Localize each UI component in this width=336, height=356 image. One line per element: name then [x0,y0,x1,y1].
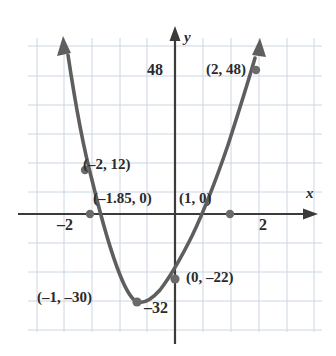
point-0-minus22 [170,274,179,283]
point-label-0-minus22: (0, –22) [186,270,234,285]
point-label-1-0: (1, 0) [179,191,212,206]
y-value-48-label: 48 [147,62,163,78]
point-label-minus185-0: (–1.85, 0) [93,191,152,206]
x-tick-label-2: 2 [259,217,267,233]
point-label-2-48: (2, 48) [206,62,246,77]
y-axis-name-label: y [184,30,191,45]
point-minus1-minus30 [132,297,141,306]
point-label-minus1-minus30: (–1, –30) [37,290,92,305]
point-1-0 [226,210,234,218]
x-tick-label-minus-2: –2 [57,217,73,233]
point-minus185-0 [86,210,94,218]
point-2-48 [252,66,260,74]
x-axis-name-label: x [306,186,314,201]
graph-figure: 48 y x (2, 48) (–2, 12) (–1.85, 0) (1, 0… [0,0,336,356]
point-label-minus2-12: (–2, 12) [83,157,131,172]
y-value-minus-32-label: –32 [144,300,168,316]
